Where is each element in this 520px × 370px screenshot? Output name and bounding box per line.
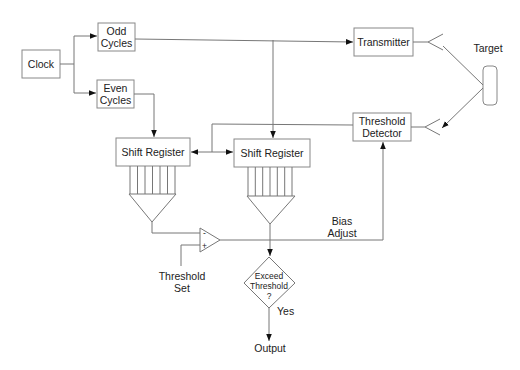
bias-adjust-label-line1: Bias: [332, 215, 352, 227]
summer-2-triangle: [247, 196, 295, 224]
shift-register-2-label: Shift Register: [240, 147, 304, 159]
radar-block-diagram: Clock Odd Cycles Even Cycles Transmitter…: [0, 0, 520, 370]
decision-label-line3: ?: [267, 291, 272, 301]
threshold-detector-label-line1: Threshold: [359, 115, 406, 127]
transmitter-label: Transmitter: [357, 36, 410, 48]
odd-cycles-block: Odd Cycles: [98, 23, 135, 51]
output-label: Output: [254, 342, 286, 354]
odd-to-transmitter-arrow: [135, 39, 353, 42]
transmitter-block: Transmitter: [354, 28, 413, 56]
summer-1-triangle: [129, 194, 176, 222]
echo-beam-arrow: [442, 88, 483, 128]
target-label: Target: [473, 42, 502, 54]
clock-label: Clock: [28, 58, 55, 70]
yes-label: Yes: [277, 305, 294, 317]
shift-register-2-taps: [248, 167, 292, 196]
even-to-shift-register-1-arrow: [134, 94, 154, 137]
odd-cycles-label-line2: Cycles: [101, 37, 133, 49]
clock-branch-line: [60, 36, 74, 93]
bias-adjust-label-line2: Adjust: [327, 227, 356, 239]
comparator-opamp: - +: [200, 228, 220, 252]
receive-antenna-icon: [411, 119, 440, 135]
shift-register-1-taps: [130, 166, 175, 194]
even-cycles-block: Even Cycles: [97, 80, 134, 108]
shift-register-2-block: Shift Register: [234, 139, 310, 167]
target-shape: [483, 66, 497, 105]
transmit-antenna-icon: [413, 34, 443, 50]
odd-cycles-label-line1: Odd: [107, 25, 127, 37]
decision-label-line1: Exceed: [255, 271, 284, 281]
shift-register-1-label: Shift Register: [121, 146, 185, 158]
decision-label-line2: Threshold: [250, 281, 288, 291]
comparator-plus-label: +: [202, 241, 207, 251]
clock-block: Clock: [22, 50, 60, 78]
even-cycles-label-line1: Even: [104, 82, 128, 94]
shift-register-1-block: Shift Register: [116, 138, 190, 166]
summer-1-to-comparator-line: [152, 222, 200, 233]
threshold-set-line: [181, 245, 200, 266]
exceed-threshold-decision: Exceed Threshold ?: [244, 257, 295, 308]
threshold-detector-label-line2: Detector: [362, 127, 402, 139]
threshold-detector-block: Threshold Detector: [353, 113, 411, 141]
comparator-minus-label: -: [203, 228, 206, 238]
even-cycles-label-line2: Cycles: [100, 94, 132, 106]
threshold-set-label-line1: Threshold: [159, 270, 206, 282]
threshold-set-label-line2: Set: [174, 282, 190, 294]
